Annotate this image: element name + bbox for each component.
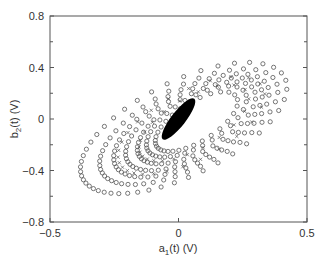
circle-marker xyxy=(117,192,121,196)
phase-portrait-chart: −0.500.5 0.80.40−0.4−0.8 a1(t) (V) b2(t)… xyxy=(0,0,327,271)
circle-marker xyxy=(154,162,158,166)
circle-marker xyxy=(158,155,162,159)
cross-marker xyxy=(150,109,153,112)
circle-marker xyxy=(268,110,272,114)
circle-marker xyxy=(245,121,249,125)
cross-marker xyxy=(120,141,123,144)
circle-marker xyxy=(216,64,220,68)
circle-marker xyxy=(147,114,151,118)
circle-marker xyxy=(235,98,239,102)
circle-marker xyxy=(134,128,138,132)
circle-marker xyxy=(182,75,186,79)
circle-marker xyxy=(285,87,289,91)
circle-marker xyxy=(156,168,160,172)
circle-marker xyxy=(113,149,117,153)
circle-marker xyxy=(239,122,243,126)
circle-marker xyxy=(163,172,167,176)
circle-marker xyxy=(104,143,108,147)
circle-marker xyxy=(193,82,197,86)
circle-marker xyxy=(201,169,205,173)
cross-marker xyxy=(259,82,262,85)
cross-marker xyxy=(118,161,121,164)
circle-marker xyxy=(211,144,215,148)
cross-marker xyxy=(235,135,238,138)
circle-marker xyxy=(112,116,116,120)
circle-marker xyxy=(173,160,177,164)
circle-marker xyxy=(191,148,195,152)
cross-marker xyxy=(187,87,190,90)
circle-marker xyxy=(122,131,126,135)
circle-marker xyxy=(255,75,259,79)
circle-marker xyxy=(242,131,246,135)
circle-marker xyxy=(123,107,127,111)
circle-marker xyxy=(216,161,220,165)
circle-marker xyxy=(244,93,248,97)
circle-marker xyxy=(212,71,216,75)
circle-marker xyxy=(102,124,106,128)
circle-marker xyxy=(84,147,88,151)
circle-marker xyxy=(271,75,275,79)
circle-marker xyxy=(81,154,85,158)
circle-marker xyxy=(208,155,212,159)
circle-marker xyxy=(246,72,250,76)
circle-marker xyxy=(78,165,82,169)
circle-marker xyxy=(98,159,102,163)
circle-marker xyxy=(197,76,201,80)
cross-marker xyxy=(116,156,119,159)
circle-marker xyxy=(146,124,150,128)
circle-marker xyxy=(248,60,252,64)
circle-marker xyxy=(144,110,148,114)
circle-marker xyxy=(109,191,113,195)
circle-marker xyxy=(154,102,158,106)
circle-marker xyxy=(139,175,143,179)
circle-marker xyxy=(140,121,144,125)
circle-marker xyxy=(144,168,148,172)
cross-marker xyxy=(152,159,155,162)
circle-marker xyxy=(168,104,172,108)
circle-marker xyxy=(226,119,230,123)
circle-marker xyxy=(219,90,223,94)
circle-marker xyxy=(262,79,266,83)
circle-marker xyxy=(267,93,271,97)
circle-marker xyxy=(159,185,163,189)
circle-marker xyxy=(127,174,131,178)
circle-marker xyxy=(204,82,208,86)
circle-marker xyxy=(178,93,182,97)
circle-marker xyxy=(181,82,185,86)
circle-marker xyxy=(273,100,277,104)
x-tick-label: −0.5 xyxy=(39,227,61,239)
circle-marker xyxy=(159,125,163,129)
circle-marker xyxy=(147,188,151,192)
circle-marker xyxy=(126,140,130,144)
circle-marker xyxy=(189,92,193,96)
circle-marker xyxy=(133,175,137,179)
circle-marker xyxy=(114,144,118,148)
circle-marker xyxy=(172,181,176,185)
circle-marker xyxy=(253,97,257,101)
circle-marker xyxy=(259,88,263,92)
cross-marker xyxy=(126,169,129,172)
cross-marker xyxy=(199,158,202,161)
cross-marker xyxy=(121,166,124,169)
circle-marker xyxy=(210,138,214,142)
circle-marker xyxy=(246,113,250,117)
circle-marker xyxy=(99,154,103,158)
circle-marker xyxy=(173,175,177,179)
circle-marker xyxy=(245,142,249,146)
cross-marker xyxy=(263,92,266,95)
circle-marker xyxy=(102,190,106,194)
circle-marker xyxy=(163,155,167,159)
cross-marker xyxy=(132,171,135,174)
circle-marker xyxy=(130,113,134,117)
circle-marker xyxy=(112,154,116,158)
circle-marker xyxy=(227,90,231,94)
circle-marker xyxy=(276,90,280,94)
circle-marker xyxy=(114,129,118,133)
x-tick-labels: −0.500.5 xyxy=(39,227,315,239)
circle-marker xyxy=(165,111,169,115)
circle-marker xyxy=(179,88,183,92)
circle-marker xyxy=(236,130,240,134)
y-tick-label: −0.8 xyxy=(22,216,44,228)
circle-marker xyxy=(149,130,153,134)
circle-marker xyxy=(168,155,172,159)
